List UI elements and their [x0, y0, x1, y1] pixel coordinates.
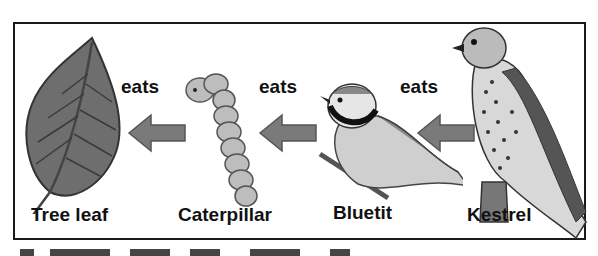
- arrow-left-icon: [258, 113, 318, 153]
- arrow-left-icon: [127, 113, 187, 153]
- cropped-caption-text: [20, 246, 580, 256]
- caterpillar-label: Caterpillar: [178, 204, 272, 226]
- eats-label-3: eats: [400, 76, 438, 98]
- bluetit-label: Bluetit: [333, 202, 392, 224]
- eats-label-2: eats: [259, 76, 297, 98]
- tree-leaf-label: Tree leaf: [31, 204, 108, 226]
- kestrel-label: Kestrel: [467, 204, 531, 226]
- caterpillar-illustration: [180, 68, 270, 213]
- tree-leaf-illustration: [14, 34, 124, 214]
- eats-label-1: eats: [121, 76, 159, 98]
